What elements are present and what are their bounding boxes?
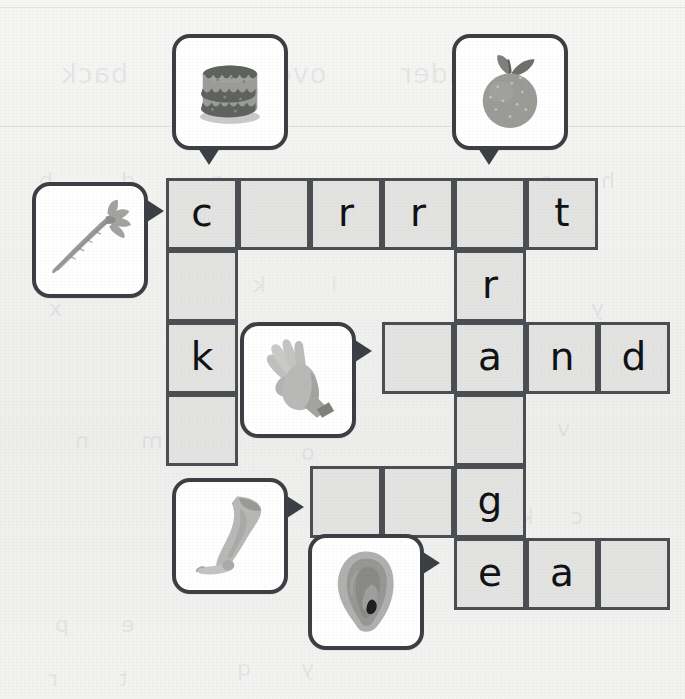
crossword-cell-filled[interactable]: e bbox=[454, 538, 526, 610]
cake-icon bbox=[186, 48, 274, 136]
crossword-cell-filled[interactable]: c bbox=[166, 178, 238, 250]
hand-icon bbox=[255, 335, 341, 425]
picture-clue-cake[interactable] bbox=[172, 34, 288, 150]
crossword-cell-empty[interactable] bbox=[238, 178, 310, 250]
crossword-cell-filled[interactable]: d bbox=[598, 322, 670, 394]
cell-letter: r bbox=[338, 193, 354, 232]
crossword-cell-empty[interactable] bbox=[382, 466, 454, 538]
crossword-cell-empty[interactable] bbox=[454, 178, 526, 250]
crossword-cell-filled[interactable]: g bbox=[454, 466, 526, 538]
cell-letter: e bbox=[478, 553, 502, 592]
cell-letter: g bbox=[478, 481, 503, 520]
cell-letter: k bbox=[191, 337, 214, 376]
crossword-cell-filled[interactable]: a bbox=[454, 322, 526, 394]
leg-icon bbox=[187, 491, 273, 581]
cell-letter: r bbox=[410, 193, 426, 232]
ear-icon bbox=[323, 546, 409, 638]
crossword-cell-filled[interactable]: n bbox=[526, 322, 598, 394]
cell-letter: n bbox=[550, 337, 575, 376]
cell-letter: d bbox=[622, 337, 647, 376]
crossword-cell-empty[interactable] bbox=[382, 322, 454, 394]
picture-clue-hand[interactable] bbox=[240, 322, 356, 438]
cell-letter: a bbox=[478, 337, 502, 376]
crossword-cell-empty[interactable] bbox=[310, 466, 382, 538]
cell-letter: r bbox=[482, 265, 498, 304]
clue-pointer-down bbox=[478, 148, 500, 165]
clue-pointer-right bbox=[287, 496, 304, 518]
cell-letter: a bbox=[550, 553, 574, 592]
worksheet-page: backoverunderbdgshklxymnyvokcpeqyrt crrt… bbox=[0, 0, 685, 699]
orange-icon bbox=[466, 48, 554, 136]
picture-clue-carrot[interactable] bbox=[32, 182, 148, 298]
crossword-cell-filled[interactable]: r bbox=[310, 178, 382, 250]
carrot-icon bbox=[44, 197, 136, 283]
picture-clue-ear[interactable] bbox=[308, 534, 424, 650]
crossword-cell-empty[interactable] bbox=[454, 394, 526, 466]
clue-pointer-right bbox=[355, 340, 372, 362]
cell-letter: c bbox=[191, 193, 212, 232]
crossword-cell-filled[interactable]: k bbox=[166, 322, 238, 394]
picture-clue-orange[interactable] bbox=[452, 34, 568, 150]
crossword-cell-filled[interactable]: r bbox=[454, 250, 526, 322]
crossword-cell-filled[interactable]: t bbox=[526, 178, 598, 250]
clue-pointer-down bbox=[198, 148, 220, 165]
crossword-cell-empty[interactable] bbox=[598, 538, 670, 610]
clue-pointer-right bbox=[147, 200, 164, 222]
crossword-cell-filled[interactable]: a bbox=[526, 538, 598, 610]
cell-letter: t bbox=[554, 193, 569, 232]
picture-clue-leg[interactable] bbox=[172, 478, 288, 594]
crossword-cell-filled[interactable]: r bbox=[382, 178, 454, 250]
clue-pointer-right bbox=[423, 552, 440, 574]
crossword-cell-empty[interactable] bbox=[166, 250, 238, 322]
crossword-cell-empty[interactable] bbox=[166, 394, 238, 466]
